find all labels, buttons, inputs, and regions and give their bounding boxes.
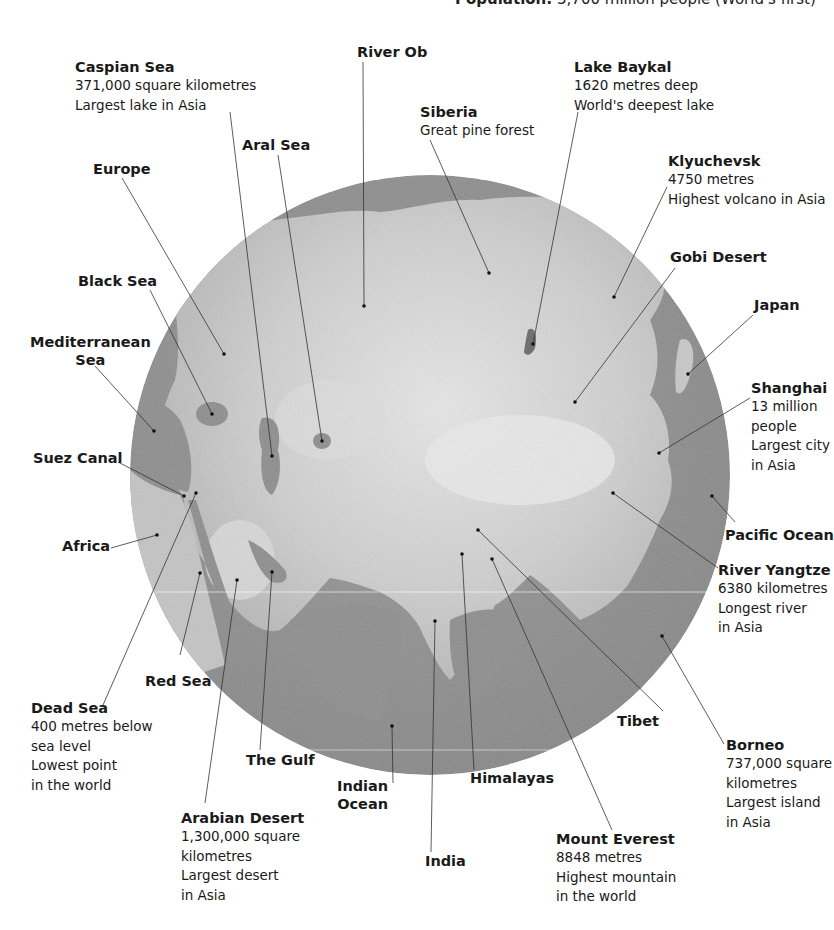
label-japan: Japan (754, 296, 800, 314)
label-himalayas: Himalayas (470, 769, 554, 787)
label-aral-sea: Aral Sea (242, 136, 310, 154)
label-detail: Highest volcano in Asia (668, 190, 826, 210)
label-detail: 6380 kilometres (718, 579, 830, 599)
label-pacific-ocean: Pacific Ocean (725, 526, 834, 544)
marker-dot-siberia (487, 271, 491, 275)
label-title: Siberia (420, 103, 534, 121)
label-title: Suez Canal (33, 449, 123, 467)
label-detail: in Asia (718, 618, 830, 638)
label-title: Klyuchevsk (668, 152, 826, 170)
label-detail: Great pine forest (420, 121, 534, 141)
label-suez-canal: Suez Canal (33, 449, 123, 467)
marker-dot-europe (222, 352, 226, 356)
label-title: Europe (93, 160, 151, 178)
globe (130, 175, 730, 775)
label-klyuchevsk: Klyuchevsk4750 metresHighest volcano in … (668, 152, 826, 209)
label-title: Tibet (617, 712, 659, 730)
label-detail: in the world (556, 887, 676, 907)
label-india: India (425, 852, 466, 870)
marker-dot-tibet (476, 528, 480, 532)
label-gobi-desert: Gobi Desert (670, 248, 767, 266)
label-detail: in the world (31, 776, 153, 796)
label-detail: Lowest point (31, 756, 153, 776)
label-title: Red Sea (145, 672, 212, 690)
marker-dot-mediterranean-sea (152, 429, 156, 433)
label-caspian-sea: Caspian Sea371,000 square kilometresLarg… (75, 58, 256, 115)
label-the-gulf: The Gulf (246, 751, 315, 769)
label-detail: in Asia (181, 886, 304, 906)
label-title: Black Sea (78, 272, 157, 290)
label-red-sea: Red Sea (145, 672, 212, 690)
label-detail: Largest city (751, 436, 830, 456)
marker-dot-borneo (660, 634, 664, 638)
label-detail: 371,000 square kilometres (75, 76, 256, 96)
label-detail: 4750 metres (668, 170, 826, 190)
marker-dot-black-sea (210, 412, 214, 416)
label-title: Lake Baykal (574, 58, 714, 76)
label-indian-ocean: Indian Ocean (337, 777, 388, 813)
label-lake-baykal: Lake Baykal1620 metres deepWorld's deepe… (574, 58, 714, 115)
label-title: Mediterranean Sea (30, 333, 151, 369)
label-title: Arabian Desert (181, 809, 304, 827)
marker-dot-suez-canal (182, 494, 186, 498)
label-river-yangtze: River Yangtze6380 kilometresLongest rive… (718, 561, 830, 638)
label-title: India (425, 852, 466, 870)
label-tibet: Tibet (617, 712, 659, 730)
label-detail: 1620 metres deep (574, 76, 714, 96)
label-river-ob: River Ob (357, 43, 427, 61)
marker-dot-indian-ocean (390, 724, 394, 728)
label-title: Caspian Sea (75, 58, 256, 76)
marker-dot-gobi-desert (573, 400, 577, 404)
label-title: Aral Sea (242, 136, 310, 154)
label-title: Borneo (726, 736, 832, 754)
marker-dot-shanghai (657, 451, 661, 455)
label-title: Mount Everest (556, 830, 676, 848)
marker-dot-dead-sea (194, 491, 198, 495)
label-detail: kilometres (181, 847, 304, 867)
label-dead-sea: Dead Sea400 metres belowsea levelLowest … (31, 699, 153, 795)
label-shanghai: Shanghai13 millionpeopleLargest cityin A… (751, 379, 830, 475)
label-arabian-desert: Arabian Desert1,300,000 squarekilometres… (181, 809, 304, 905)
marker-dot-river-yangtze (611, 491, 615, 495)
marker-dot-pacific-ocean (710, 494, 714, 498)
marker-dot-india (433, 619, 437, 623)
label-borneo: Borneo737,000 squarekilometresLargest is… (726, 736, 832, 832)
label-title: Gobi Desert (670, 248, 767, 266)
label-detail: Largest island (726, 793, 832, 813)
marker-dot-red-sea (198, 571, 202, 575)
label-detail: 400 metres below (31, 717, 153, 737)
marker-dot-arabian-desert (235, 578, 239, 582)
label-title: Dead Sea (31, 699, 153, 717)
label-detail: 737,000 square (726, 754, 832, 774)
label-title: Himalayas (470, 769, 554, 787)
label-title: Japan (754, 296, 800, 314)
label-detail: 13 million (751, 397, 830, 417)
label-title: Indian Ocean (337, 777, 388, 813)
label-africa: Africa (62, 537, 110, 555)
label-detail: sea level (31, 737, 153, 757)
label-title: Pacific Ocean (725, 526, 834, 544)
marker-dot-klyuchevsk (612, 295, 616, 299)
label-mount-everest: Mount Everest8848 metresHighest mountain… (556, 830, 676, 907)
marker-dot-japan (686, 372, 690, 376)
label-detail: Highest mountain (556, 868, 676, 888)
label-mediterranean-sea: Mediterranean Sea (30, 333, 151, 369)
label-detail: 8848 metres (556, 848, 676, 868)
label-detail: people (751, 417, 830, 437)
label-siberia: SiberiaGreat pine forest (420, 103, 534, 141)
label-detail: World's deepest lake (574, 96, 714, 116)
label-title: River Ob (357, 43, 427, 61)
marker-dot-africa (155, 533, 159, 537)
label-detail: in Asia (751, 456, 830, 476)
terrain-texture (130, 175, 730, 775)
label-title: Shanghai (751, 379, 830, 397)
label-detail: 1,300,000 square (181, 827, 304, 847)
label-black-sea: Black Sea (78, 272, 157, 290)
label-detail: in Asia (726, 813, 832, 833)
marker-dot-the-gulf (270, 570, 274, 574)
marker-dot-mount-everest (490, 557, 494, 561)
marker-dot-himalayas (460, 552, 464, 556)
label-detail: Longest river (718, 599, 830, 619)
marker-dot-caspian-sea (270, 454, 274, 458)
